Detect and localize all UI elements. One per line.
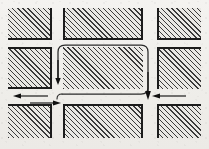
diagram-canvas [0, 0, 209, 149]
arrow-street-left-west [13, 93, 48, 98]
arrow-loop-down-right [145, 72, 151, 100]
routing-loop-tail [57, 94, 62, 99]
routing-loop-path [58, 45, 148, 94]
arrow-street-right-west [152, 93, 186, 98]
arrow-loop-down-left [55, 60, 60, 85]
overlay-path-layer [0, 0, 209, 149]
arrow-street-left-east [30, 100, 61, 105]
